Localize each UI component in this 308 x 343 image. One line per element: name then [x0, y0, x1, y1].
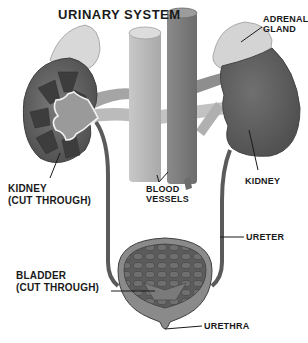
right-kidney — [220, 48, 300, 156]
renal-vessels — [88, 72, 240, 136]
label-bladder-cut-line1: BLADDER — [16, 270, 99, 282]
bladder-cut — [118, 238, 212, 329]
blood-vessels — [129, 8, 197, 190]
label-adrenal-gland-line2: GLAND — [263, 24, 308, 34]
label-bladder-cut-line2: (CUT THROUGH) — [16, 282, 99, 294]
label-blood-vessels: BLOOD VESSELS — [146, 184, 189, 205]
label-ureter: URETER — [246, 232, 284, 242]
label-urethra: URETHRA — [204, 321, 249, 331]
left-kidney-cut — [23, 58, 98, 163]
label-blood-vessels-line1: BLOOD — [146, 184, 189, 194]
label-kidney-cut-line2: (CUT THROUGH) — [8, 195, 91, 207]
label-kidney-cut-through: KIDNEY (CUT THROUGH) — [8, 183, 91, 206]
label-adrenal-gland-line1: ADRENAL — [263, 14, 308, 24]
label-kidney-cut-line1: KIDNEY — [8, 183, 91, 195]
diagram-title: URINARY SYSTEM — [58, 8, 181, 23]
left-ureter — [96, 122, 118, 286]
label-adrenal-gland: ADRENAL GLAND — [263, 14, 308, 35]
label-kidney: KIDNEY — [245, 176, 280, 186]
label-blood-vessels-line2: VESSELS — [146, 194, 189, 204]
label-bladder-cut-through: BLADDER (CUT THROUGH) — [16, 270, 99, 293]
right-ureter — [212, 150, 230, 286]
